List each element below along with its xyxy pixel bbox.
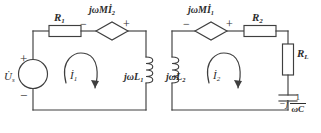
circuit-diagram: R1 jωMİ2 − + U̇s + − jωL1 İ1 jωMİ1 − … bbox=[0, 0, 321, 133]
resistor-r2 bbox=[244, 26, 276, 37]
voltage-source-minus-sign: − bbox=[20, 89, 27, 102]
dependent-source-2-minus-sign: − bbox=[183, 18, 190, 30]
capacitor-impedance-denominator: ωC bbox=[290, 104, 307, 114]
capacitor-impedance-fraction: 1 ωC bbox=[290, 93, 307, 114]
circuit-schematic-canvas bbox=[0, 0, 321, 133]
dependent-source-2-plus-sign: + bbox=[226, 18, 233, 30]
dependent-source-jwMI2-label: jωMİ2 bbox=[89, 5, 115, 15]
left-mesh-group bbox=[19, 22, 153, 110]
mesh-current-I1-label: İ1 bbox=[70, 70, 77, 81]
resistor-r1 bbox=[49, 26, 81, 37]
dependent-source-jwMI1-label: jωMİ1 bbox=[188, 5, 214, 15]
inductor-L1 bbox=[146, 57, 153, 83]
dependent-source-1-minus-sign: − bbox=[80, 18, 87, 30]
inductor-L1-label: jωL1 bbox=[124, 72, 143, 82]
inductor-L2-label: jωL2 bbox=[166, 72, 185, 82]
mesh-current-arrowhead-I2 bbox=[234, 80, 242, 88]
resistor-r1-label: R1 bbox=[54, 12, 65, 23]
mesh-current-I2-label: İ2 bbox=[213, 70, 220, 81]
dependent-source-jwMI1 bbox=[195, 22, 227, 40]
resistor-rl-label: RL bbox=[297, 48, 309, 59]
resistor-rl bbox=[283, 44, 294, 75]
resistor-r2-label: R2 bbox=[252, 12, 263, 23]
dependent-source-1-plus-sign: + bbox=[123, 18, 130, 30]
capacitor-impedance-prefix: −j bbox=[279, 99, 289, 109]
voltage-source-plus-sign: + bbox=[20, 52, 27, 65]
capacitor-impedance-numerator: 1 bbox=[294, 93, 303, 103]
mesh-current-arrowhead-I1 bbox=[91, 80, 99, 88]
capacitor-impedance-label: −j 1 ωC bbox=[279, 93, 306, 114]
voltage-source-label: U̇s bbox=[4, 71, 15, 82]
